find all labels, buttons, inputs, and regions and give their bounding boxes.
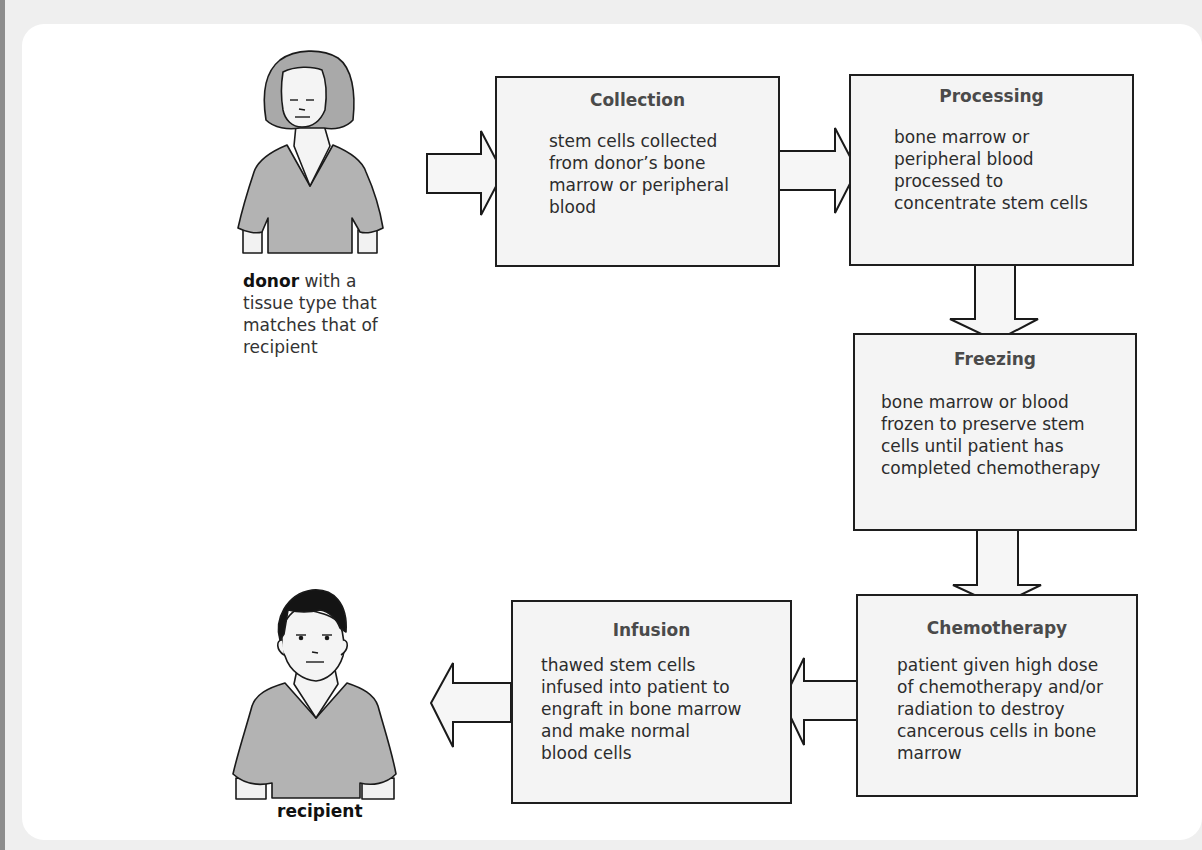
step-collection: Collection stem cells collected from don… xyxy=(495,76,780,267)
recipient-label: recipient xyxy=(277,800,363,822)
step-description: bone marrow or peripheral blood processe… xyxy=(894,126,1088,214)
donor-label: donor xyxy=(243,271,299,291)
step-title: Processing xyxy=(851,86,1132,106)
step-description: patient given high dose of chemotherapy … xyxy=(897,654,1103,764)
step-description: bone marrow or blood frozen to preserve … xyxy=(881,391,1100,479)
step-title: Freezing xyxy=(855,349,1135,369)
step-processing: Processing bone marrow or peripheral blo… xyxy=(849,74,1134,266)
arrow-right-icon xyxy=(427,131,503,215)
donor-figure-icon xyxy=(238,51,383,253)
step-freezing: Freezing bone marrow or blood frozen to … xyxy=(853,333,1137,531)
recipient-figure-icon xyxy=(233,590,396,799)
donor-caption: donor with a tissue type that matches th… xyxy=(243,270,413,358)
step-description: stem cells collected from donor’s bone m… xyxy=(549,130,729,218)
arrow-right-icon xyxy=(779,128,857,213)
step-title: Collection xyxy=(497,90,778,110)
step-chemotherapy: Chemotherapy patient given high dose of … xyxy=(856,594,1138,797)
arrow-left-icon xyxy=(431,663,511,747)
step-description: thawed stem cells infused into patient t… xyxy=(541,654,742,764)
step-title: Chemotherapy xyxy=(858,618,1136,638)
step-infusion: Infusion thawed stem cells infused into … xyxy=(511,600,792,804)
step-title: Infusion xyxy=(513,620,790,640)
arrow-down-icon xyxy=(950,265,1038,341)
arrow-left-icon xyxy=(783,658,857,745)
